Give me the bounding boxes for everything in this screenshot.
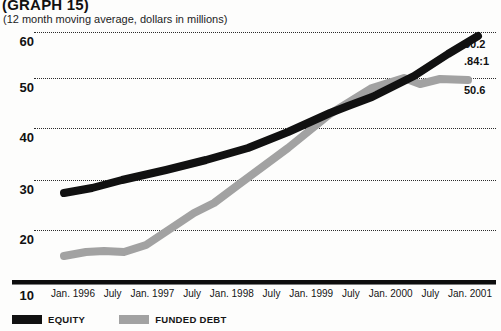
legend-swatch-equity (12, 315, 42, 324)
plot-area (34, 30, 496, 282)
x-tick-jan-2000: Jan. 2000 (369, 288, 413, 299)
gridline-20 (34, 230, 496, 231)
y-tick-20: 20 (4, 232, 34, 247)
y-tick-40: 40 (4, 130, 34, 145)
gridline-40 (34, 128, 496, 129)
chart-subtitle: (12 month moving average, dollars in mil… (3, 13, 227, 25)
legend-swatch-funded-debt (119, 315, 149, 324)
legend-label-funded-debt: FUNDED DEBT (155, 314, 226, 325)
gridline-50 (34, 78, 496, 79)
y-tick-50: 50 (4, 80, 34, 95)
x-tick-july-1998: July (263, 288, 281, 299)
equity-end-label: 60.2 (464, 38, 485, 50)
x-tick-jan-1998: Jan. 1998 (210, 288, 254, 299)
x-tick-july-2000: July (421, 288, 439, 299)
legend-item-funded-debt: FUNDED DEBT (119, 314, 226, 325)
y-tick-10: 10 (4, 288, 34, 303)
x-axis-shadow (12, 284, 496, 285)
ratio-label: .84:1 (464, 55, 489, 67)
x-tick-jan-1999: Jan. 1999 (289, 288, 333, 299)
chart-legend: EQUITY FUNDED DEBT (12, 312, 227, 326)
legend-item-equity: EQUITY (12, 314, 85, 325)
x-tick-july-1996: July (104, 288, 122, 299)
x-tick-jan-2001: Jan. 2001 (448, 288, 492, 299)
page-title: (GRAPH 15) (2, 0, 89, 13)
x-tick-july-1999: July (342, 288, 360, 299)
x-tick-jan-1996: Jan. 1996 (51, 288, 95, 299)
legend-label-equity: EQUITY (48, 314, 85, 325)
debt-end-label: 50.6 (464, 84, 485, 96)
gridline-30 (34, 180, 496, 181)
y-tick-30: 30 (4, 182, 34, 197)
chart-page: (GRAPH 15) (12 month moving average, dol… (0, 0, 501, 331)
gridline-60 (34, 32, 496, 33)
y-tick-60: 60 (4, 34, 34, 49)
x-tick-jan-1997: Jan. 1997 (130, 288, 174, 299)
x-tick-july-1997: July (183, 288, 201, 299)
